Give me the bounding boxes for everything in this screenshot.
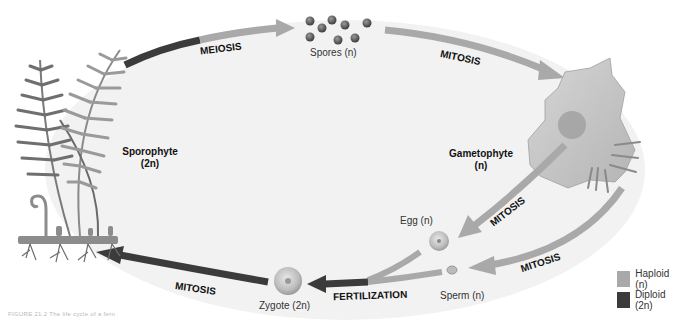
zygote-icon — [274, 267, 302, 295]
egg-icon — [429, 231, 449, 251]
diploid-legend-label: Diploid (2n) — [635, 289, 676, 311]
sporophyte-ploidy: (2n) — [110, 158, 190, 170]
diploid-swatch — [617, 292, 630, 308]
legend: Haploid (n) Diploid (2n) — [617, 268, 676, 310]
egg-label: Egg (n) — [400, 215, 433, 226]
sperm-icon — [447, 266, 457, 274]
sporophyte-name: Sporophyte — [110, 146, 190, 158]
spores-label: Spores (n) — [310, 47, 357, 58]
legend-item-haploid: Haploid (n) — [617, 268, 676, 289]
haploid-swatch — [617, 271, 630, 287]
sperm-label: Sperm (n) — [440, 290, 484, 301]
legend-item-diploid: Diploid (2n) — [617, 289, 676, 310]
gametophyte-name: Gametophyte — [445, 148, 517, 160]
gametophyte-ploidy: (n) — [445, 160, 517, 172]
zygote-label: Zygote (2n) — [259, 300, 310, 311]
sporophyte-label: Sporophyte (2n) — [110, 146, 190, 170]
figure-caption: FIGURE 21.2 The life cycle of a fern — [8, 311, 115, 317]
haploid-legend-label: Haploid (n) — [635, 268, 676, 290]
gametophyte-label: Gametophyte (n) — [445, 148, 517, 172]
